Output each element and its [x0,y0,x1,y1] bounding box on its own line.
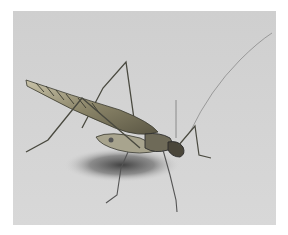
katydid-illustration [0,0,288,235]
abdomen-spot [109,138,114,143]
head [168,142,184,157]
antenna-long [190,33,272,132]
image-frame: Pencil-and-watercolor illustration of a … [0,0,288,235]
